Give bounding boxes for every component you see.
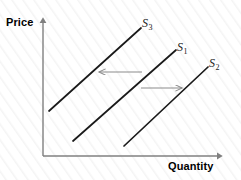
curve-label-s2: S2 [209,56,219,71]
curve-label-s3: S3 [142,16,152,31]
curve-label-s1-text: S [177,40,183,54]
diagram-canvas [0,0,241,180]
curve-label-s3-subscript: 3 [149,23,153,32]
curve-label-s2-subscript: 2 [216,63,220,72]
curve-label-s1-subscript: 1 [184,47,188,56]
curve-label-s1: S1 [177,40,187,55]
supply-shift-diagram: Price Quantity S3 S1 S2 [0,0,241,180]
background-texture [0,0,241,180]
curve-label-s3-text: S [142,16,148,30]
curve-label-s2-text: S [209,56,215,70]
x-axis-label: Quantity [168,160,213,172]
y-axis-label: Price [6,16,33,28]
